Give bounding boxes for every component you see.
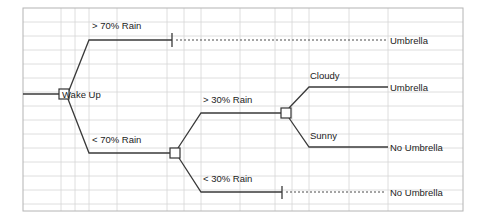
outcome-label-no-umbrella-sunny: No Umbrella [390,142,444,153]
outcome-label-umbrella-top: Umbrella [390,35,429,46]
branch-label-sunny: Sunny [310,130,337,141]
branch-label-gt-30-rain: > 30% Rain [203,94,252,105]
diagram-canvas: Wake Up > 70% Rain < 70% Rain > 30% Rain… [0,0,487,224]
decision-tree-diagram: Wake Up > 70% Rain < 70% Rain > 30% Rain… [0,0,487,224]
root-label: Wake Up [62,89,101,100]
outcome-label-umbrella-cloudy: Umbrella [390,82,429,93]
branch-label-cloudy: Cloudy [310,70,340,81]
node-rain-70-split[interactable] [170,148,180,158]
branch-label-lt-30-rain: < 30% Rain [203,173,252,184]
node-weather-split[interactable] [281,108,291,118]
branch-label-lt-70-rain: < 70% Rain [92,134,141,145]
branch-label-gt-70-rain: > 70% Rain [92,20,141,31]
outcome-label-no-umbrella-bottom: No Umbrella [390,187,444,198]
